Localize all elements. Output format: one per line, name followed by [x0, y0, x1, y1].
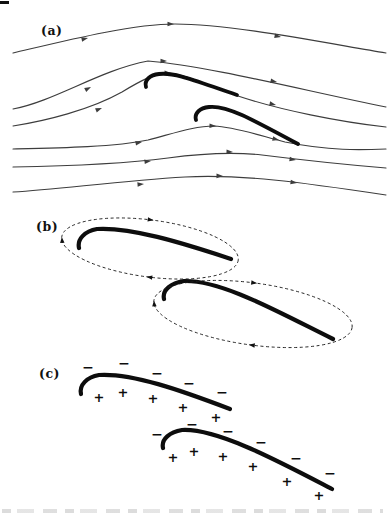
airfoil-b-upper	[79, 229, 231, 259]
plus-sign: +	[118, 386, 129, 399]
minus-sign: −	[82, 360, 94, 374]
circulation-arrow-icon	[147, 217, 154, 222]
plus-sign: +	[178, 401, 189, 414]
streamline-6	[13, 176, 386, 195]
minus-sign: −	[151, 366, 163, 380]
flow-arrow-icon	[135, 140, 142, 146]
minus-sign: −	[151, 427, 163, 441]
flow-arrow-icon	[137, 182, 144, 187]
flow-arrow-icon	[168, 22, 175, 27]
streamline-1	[13, 24, 386, 53]
figure-page: (a) (b) (c)	[0, 0, 387, 514]
plus-sign: +	[211, 411, 222, 424]
plus-sign: +	[148, 392, 159, 405]
minus-sign: −	[255, 435, 267, 449]
airfoil-b-lower	[164, 281, 333, 339]
minus-sign: −	[216, 385, 228, 399]
circulation-arrow-icon	[251, 280, 258, 285]
airfoils	[79, 74, 333, 489]
flow-arrow-icon	[216, 174, 223, 179]
minus-sign: −	[118, 356, 130, 370]
streamline-5	[13, 153, 386, 168]
plus-sign: +	[94, 391, 105, 404]
streamline-4	[13, 126, 386, 150]
circulation-arrow-icon	[60, 237, 65, 243]
streamline-2	[13, 61, 386, 109]
aerodynamics-figure	[0, 0, 387, 514]
minus-sign: −	[183, 376, 195, 390]
minus-sign: −	[186, 417, 198, 431]
flow-arrow-icon	[272, 136, 279, 142]
plus-sign: +	[218, 450, 229, 463]
plus-sign: +	[314, 489, 325, 502]
flow-arrow-icon	[95, 106, 103, 113]
circulation-arrow-icon	[152, 300, 157, 306]
airfoil-a-upper	[146, 74, 237, 95]
plus-sign: +	[189, 445, 200, 458]
plus-sign: +	[282, 475, 293, 488]
plus-sign: +	[168, 451, 179, 464]
minus-sign: −	[324, 466, 336, 480]
flow-arrow-icon	[209, 123, 216, 128]
minus-sign: −	[290, 451, 302, 465]
flow-arrow-icon	[84, 85, 92, 92]
plus-sign: +	[248, 460, 259, 473]
cropped-caption-fragment	[2, 509, 383, 513]
minus-sign: −	[222, 424, 234, 438]
